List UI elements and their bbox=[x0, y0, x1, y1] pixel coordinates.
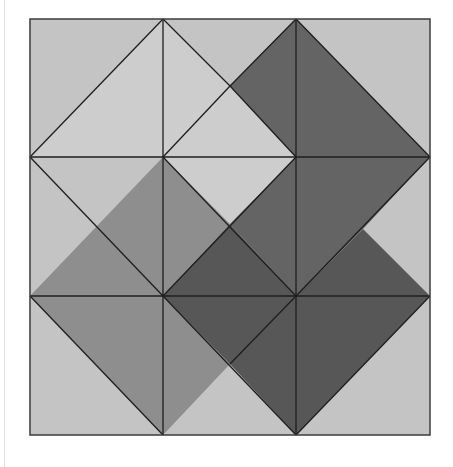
geometric-tessellation-figure bbox=[0, 0, 453, 467]
